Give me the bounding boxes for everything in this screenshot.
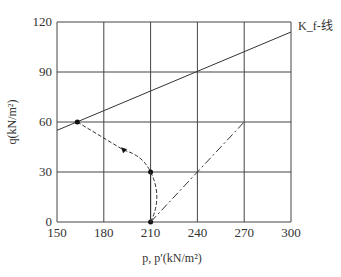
y-tick-label: 120	[33, 14, 53, 29]
y-tick-label: 60	[39, 114, 52, 129]
y-axis-label: q(kN/m²)	[5, 100, 19, 145]
x-tick-label: 300	[281, 225, 301, 240]
x-tick-label: 210	[141, 225, 161, 240]
x-tick-label: 270	[234, 225, 254, 240]
kf-failure-line	[57, 32, 291, 130]
stress-point-marker	[75, 120, 80, 125]
tick-labels: 1501802102402703000306090120	[33, 14, 301, 240]
y-tick-label: 90	[39, 64, 52, 79]
y-tick-label: 0	[46, 214, 53, 229]
y-tick-label: 30	[39, 164, 52, 179]
arrow-icon	[121, 147, 127, 153]
x-axis-label: p, p′(kN/m²)	[142, 251, 202, 265]
grid	[57, 22, 291, 222]
x-tick-label: 180	[94, 225, 114, 240]
series	[57, 32, 291, 225]
x-tick-label: 240	[188, 225, 208, 240]
kf-annotation: K_f-线	[298, 19, 333, 33]
chart: 1501802102402703000306090120 p, p′(kN/m²…	[0, 0, 341, 277]
